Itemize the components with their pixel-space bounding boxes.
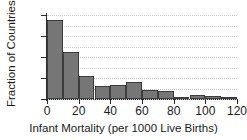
bar <box>158 91 174 99</box>
bar <box>126 82 142 99</box>
bar <box>190 95 206 99</box>
x-axis-title: Infant Mortality (per 1000 Live Births) <box>0 122 247 134</box>
x-tick-label: 60 <box>135 104 148 118</box>
x-tick-label: 0 <box>44 104 51 118</box>
y-tick <box>41 78 46 79</box>
x-tick-label: 20 <box>72 104 85 118</box>
gridline <box>47 47 237 48</box>
y-tick <box>41 99 46 100</box>
gridline <box>47 26 237 27</box>
y-axis-title: Fraction of Countries <box>5 1 17 107</box>
bar <box>142 90 158 99</box>
bar <box>95 86 111 99</box>
y-tick <box>41 15 46 16</box>
x-tick-label: 40 <box>104 104 117 118</box>
bar <box>221 97 237 99</box>
y-tick <box>41 36 46 37</box>
bar <box>205 96 221 99</box>
gridline <box>47 15 237 16</box>
x-tick-label: 100 <box>195 104 215 118</box>
bar <box>47 20 63 99</box>
infant-mortality-histogram: Fraction of Countries 00.10.20.30.4 0204… <box>0 0 247 140</box>
bar <box>63 52 79 99</box>
y-tick <box>41 57 46 58</box>
gridline <box>47 36 237 37</box>
x-tick-label: 120 <box>227 104 247 118</box>
bar <box>110 85 126 99</box>
bar <box>79 76 95 99</box>
x-tick-label: 80 <box>167 104 180 118</box>
plot-area <box>47 15 237 99</box>
bar <box>174 97 190 99</box>
